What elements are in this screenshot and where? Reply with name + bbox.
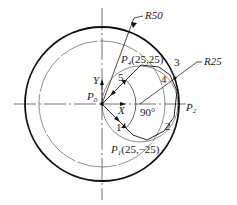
label-r50: R50 xyxy=(144,9,163,21)
r50-leader-h xyxy=(134,16,143,18)
label-angle: 90° xyxy=(140,106,155,118)
r50-arrow-icon xyxy=(131,22,137,28)
label-seg-1: 1 xyxy=(116,121,122,133)
label-seg-4: 4 xyxy=(161,73,167,85)
label-p0: P0 xyxy=(86,90,98,104)
label-r25: R25 xyxy=(203,55,222,67)
label-p4: P4(25,25) xyxy=(120,53,164,67)
label-x-axis: X xyxy=(117,104,126,116)
label-seg-5: 5 xyxy=(118,71,124,83)
diagram-canvas: R50 R25 P4(25,25) P1(25,−25) P0 P2 Y X 9… xyxy=(0,0,237,205)
y-arrow-icon xyxy=(100,79,104,85)
label-y-axis: Y xyxy=(93,74,101,86)
toolpath-diagram: R50 R25 P4(25,25) P1(25,−25) P0 P2 Y X 9… xyxy=(0,0,237,205)
label-p2: P2 xyxy=(185,101,197,115)
label-seg-3: 3 xyxy=(174,56,180,68)
label-p1: P1(25,−25) xyxy=(110,143,160,157)
r25-point xyxy=(173,76,176,79)
label-seg-2: 2 xyxy=(165,120,171,132)
r25-leader xyxy=(140,62,197,104)
p0-point xyxy=(100,102,104,106)
